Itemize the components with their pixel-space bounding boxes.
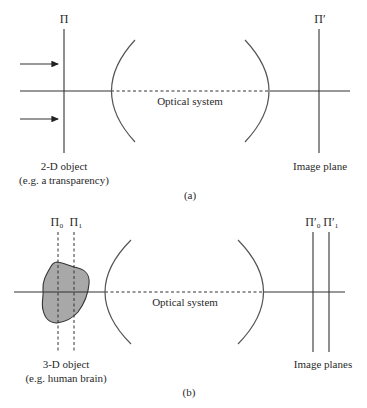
object-label: 3-D object — [43, 358, 90, 370]
optical-system-label: Optical system — [157, 95, 223, 107]
panel-b: Π₀ Π₁ Optical system Π′₀ Π′₁ 3-D object … — [14, 215, 352, 399]
image-plane-caption: Image plane — [293, 160, 347, 172]
optical-system-label: Optical system — [152, 296, 218, 308]
image-plane-label: Π′ — [314, 12, 326, 26]
optical-imaging-diagram: Π Optical system Π′ 2-D object (e.g. a t… — [0, 0, 367, 408]
image-planes-caption: Image planes — [294, 358, 352, 370]
image-plane-0-label: Π′₀ — [305, 215, 320, 229]
image-plane-1-label: Π′₁ — [323, 215, 338, 229]
panel-a-caption: (a) — [184, 189, 197, 202]
panel-b-caption: (b) — [183, 386, 196, 399]
object-example-label: (e.g. a transparency) — [19, 174, 109, 187]
object-plane-1-label: Π₁ — [70, 215, 83, 229]
object-plane-0-label: Π₀ — [51, 215, 64, 229]
panel-a: Π Optical system Π′ 2-D object (e.g. a t… — [19, 12, 350, 202]
object-label: 2-D object — [41, 160, 88, 172]
object-example-label: (e.g. human brain) — [25, 372, 107, 385]
object-plane-label: Π — [60, 12, 69, 26]
